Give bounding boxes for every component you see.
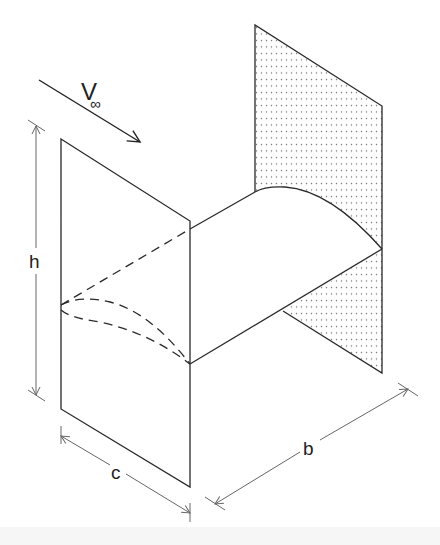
rear-endplate xyxy=(255,25,382,373)
span-label: b xyxy=(303,438,314,459)
front-endplate xyxy=(61,139,190,487)
velocity-subscript: ∞ xyxy=(90,95,101,112)
height-label: h xyxy=(29,251,40,272)
bottom-strip xyxy=(0,527,440,545)
chord-label: c xyxy=(111,462,121,483)
diagram-canvas: V ∞ h c b xyxy=(0,0,440,545)
